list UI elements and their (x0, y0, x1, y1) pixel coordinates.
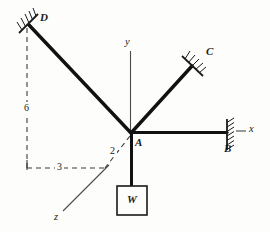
axis-label-x: x (249, 124, 254, 135)
member-ac (131, 66, 192, 133)
statics-figure: D C B A y x z 6 3 2 W (0, 0, 270, 232)
weight-label: W (127, 194, 137, 205)
axis-label-z: z (54, 212, 58, 223)
joint-label-c: C (206, 46, 213, 57)
joint-label-b: B (224, 143, 231, 154)
member-ad (29, 25, 131, 133)
z-axis-line (63, 165, 109, 211)
dimension-label-vertical: 6 (22, 102, 31, 114)
dimension-label-horizontal: 3 (55, 161, 64, 173)
joint-label-a: A (135, 137, 142, 148)
axis-label-y: y (125, 37, 130, 48)
joint-label-d: D (40, 12, 48, 23)
dimension-label-depth: 2 (108, 146, 117, 156)
